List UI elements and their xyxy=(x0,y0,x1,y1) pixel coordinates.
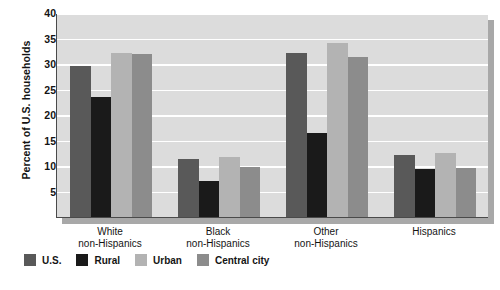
legend-swatch-icon xyxy=(76,254,88,266)
legend-label: U.S. xyxy=(42,255,61,266)
legend-swatch-icon xyxy=(24,254,36,266)
bar xyxy=(240,167,261,217)
x-axis-group-label: Blacknon-Hispanics xyxy=(164,226,272,249)
bar xyxy=(178,159,199,217)
y-axis-tick-label: 30 xyxy=(30,58,56,70)
y-axis-tick-label: 15 xyxy=(30,135,56,147)
group-label-line1: Other xyxy=(313,226,338,237)
legend-item[interactable]: U.S. xyxy=(24,254,61,266)
y-axis-tick-label: 5 xyxy=(30,186,56,198)
bar xyxy=(70,66,91,217)
x-axis-group-label: Hispanics xyxy=(380,226,488,238)
group-label-line2: non-Hispanics xyxy=(56,238,164,250)
chart-legend: U.S.RuralUrbanCentral city xyxy=(24,254,284,266)
plot-shadow-bottom xyxy=(62,218,494,224)
group-label-line2: non-Hispanics xyxy=(164,238,272,250)
group-label-line2: non-Hispanics xyxy=(272,238,380,250)
bar xyxy=(307,133,328,217)
legend-item[interactable]: Central city xyxy=(197,254,269,266)
bar xyxy=(394,155,415,217)
legend-label: Urban xyxy=(153,255,182,266)
bar xyxy=(348,57,369,217)
bar xyxy=(132,54,153,217)
bar xyxy=(91,97,112,217)
y-axis-tick-label: 20 xyxy=(30,109,56,121)
bar xyxy=(219,157,240,217)
bar xyxy=(286,53,307,217)
plot-area xyxy=(56,14,488,218)
legend-label: Rural xyxy=(94,255,120,266)
y-axis-tick-label: 25 xyxy=(30,84,56,96)
group-label-line1: Hispanics xyxy=(412,226,455,237)
legend-swatch-icon xyxy=(135,254,147,266)
y-axis-tick-label: 35 xyxy=(30,33,56,45)
y-axis-tick-label: 10 xyxy=(30,160,56,172)
chart-figure: Percent of U.S. households 4035302520151… xyxy=(0,0,500,290)
bar xyxy=(327,43,348,217)
x-axis-group-label: Whitenon-Hispanics xyxy=(56,226,164,249)
group-label-line1: Black xyxy=(206,226,230,237)
bar xyxy=(199,181,220,217)
legend-swatch-icon xyxy=(197,254,209,266)
bar xyxy=(111,53,132,217)
legend-item[interactable]: Urban xyxy=(135,254,182,266)
legend-item[interactable]: Rural xyxy=(76,254,120,266)
plot-shadow-right xyxy=(488,20,494,224)
bar xyxy=(435,153,456,217)
bar xyxy=(415,169,436,217)
bar xyxy=(456,168,477,217)
x-axis-group-label: Othernon-Hispanics xyxy=(272,226,380,249)
plot-area-wrapper xyxy=(56,14,488,218)
gridline xyxy=(57,14,488,15)
legend-label: Central city xyxy=(215,255,269,266)
y-axis-tick-label: 40 xyxy=(30,7,56,19)
gridline xyxy=(57,39,488,41)
group-label-line1: White xyxy=(97,226,123,237)
